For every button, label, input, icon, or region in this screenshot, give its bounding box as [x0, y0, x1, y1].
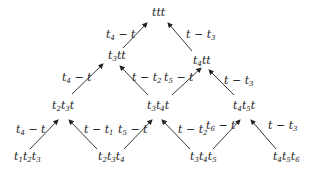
- edge-label-t4-minus-t-mid: t4 − t: [62, 72, 92, 87]
- node-ttt: ttt: [152, 7, 165, 19]
- edge-label-t-minus-t3-mid: t − t3: [224, 75, 254, 90]
- edge-label-t-minus-t3-top: t − t3: [186, 29, 216, 44]
- node-t3tt: t3tt: [108, 50, 126, 65]
- node-t1t2t3: t1t2t3: [14, 151, 41, 166]
- edge-label-t-minus-t1-low: t − t1: [84, 124, 114, 139]
- node-t2t3t4: t2t3t4: [98, 151, 125, 166]
- edge-label-t5-minus-t-mid: t5 − t: [164, 72, 194, 87]
- edge-label-t-minus-t2-mid: t − t2: [132, 72, 162, 87]
- edge-label-t5-minus-t-low: t5 − t: [118, 124, 148, 139]
- edge-label-t4-minus-t-low: t4 − t: [16, 124, 46, 139]
- node-t4tt: t4tt: [193, 55, 211, 70]
- edge-label-t-minus-t3-low: t − t3: [268, 120, 298, 135]
- node-t4t5t6: t4t5t6: [273, 151, 300, 166]
- edge-label-t-minus-t2-low: t − t2: [178, 124, 208, 139]
- node-t4t5t: t4t5t: [233, 100, 255, 115]
- node-t3t4t: t3t4t: [147, 100, 169, 115]
- node-t2t3t: t2t3t: [52, 100, 74, 115]
- node-t3t4t5: t3t4t5: [190, 151, 217, 166]
- edge-label-t4-minus-t-top: t4 − t: [106, 29, 136, 44]
- edge-label-t6-minus-t-low: t6 − t: [206, 120, 236, 135]
